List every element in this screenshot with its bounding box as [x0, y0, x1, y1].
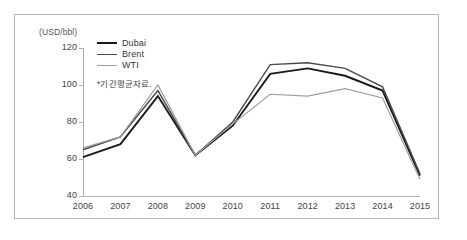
legend-entry-dubai[interactable]: Dubai [97, 38, 151, 49]
y-axis-tick-mark [79, 85, 83, 86]
legend-entry-label: WTI [122, 60, 139, 70]
x-axis-tick-label: 2007 [100, 201, 140, 211]
y-axis-tick-label: 100 [41, 79, 77, 89]
x-axis-tick-label: 2006 [63, 201, 103, 211]
legend-line-swatch-icon [97, 65, 117, 66]
x-axis-tick-label: 2010 [213, 201, 253, 211]
y-axis-unit-label: (USD/bbl) [39, 27, 77, 37]
legend-entry-brent[interactable]: Brent [97, 49, 151, 60]
y-axis-tick-mark [79, 122, 83, 123]
x-axis-tick-label: 2008 [138, 201, 178, 211]
legend-entry-label: Dubai [122, 38, 146, 48]
y-axis-tick-label: 120 [41, 42, 77, 52]
legend-entry-list: DubaiBrentWTI [97, 38, 151, 71]
legend-entry-wti[interactable]: WTI [97, 60, 151, 71]
y-axis-line [83, 48, 84, 196]
y-axis-tick-label: 40 [41, 190, 77, 200]
y-axis-tick-mark [79, 196, 83, 197]
x-axis-tick-label: 2012 [288, 201, 328, 211]
chart-legend: DubaiBrentWTI *기간평균자료. [97, 38, 151, 89]
legend-line-swatch-icon [97, 54, 117, 55]
legend-entry-label: Brent [122, 49, 144, 59]
y-axis-tick-label: 60 [41, 153, 77, 163]
x-axis-tick-label: 2014 [363, 201, 403, 211]
chart-frame-border [14, 14, 439, 219]
legend-line-swatch-icon [97, 42, 117, 44]
chart-container: (USD/bbl) 120100806040 20062007200820092… [0, 0, 467, 240]
x-axis-tick-label: 2013 [325, 201, 365, 211]
x-axis-tick-label: 2015 [400, 201, 440, 211]
y-axis-tick-mark [79, 159, 83, 160]
x-axis-tick-label: 2011 [250, 201, 290, 211]
legend-footnote: *기간평균자료. [97, 77, 151, 89]
x-axis-line [83, 196, 420, 197]
y-axis-tick-label: 80 [41, 116, 77, 126]
x-axis-tick-label: 2009 [175, 201, 215, 211]
y-axis-tick-mark [79, 48, 83, 49]
